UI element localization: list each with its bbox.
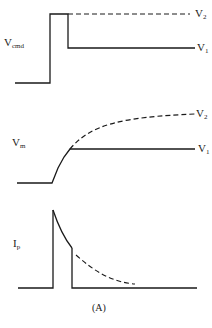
vm-axis-label: Vm [12, 137, 25, 150]
ip-label-sub: p [17, 243, 21, 251]
v1-main: V [198, 142, 206, 154]
vcmd-v1-label: V1 [197, 42, 208, 55]
vcmd-label-sub: cmd [12, 42, 24, 50]
ip-axis-label: Ip [13, 238, 20, 251]
vm-v1-label: V1 [198, 143, 209, 156]
vcmd-axis-label: Vcmd [4, 37, 24, 50]
v2-sub: 2 [204, 113, 208, 121]
vcmd-trace [15, 14, 195, 83]
v2-main: V [195, 7, 203, 19]
ip-trace [18, 210, 197, 288]
v1-sub: 1 [206, 148, 210, 156]
figure-caption: (A) [92, 302, 106, 313]
v1-sub: 1 [205, 47, 209, 55]
vm-v2-label: V2 [196, 108, 207, 121]
waveform-diagram [0, 0, 212, 328]
vm-trace [17, 114, 195, 183]
v2-main: V [196, 107, 204, 119]
vcmd-label-main: V [4, 36, 12, 48]
vcmd-v2-label: V2 [195, 8, 206, 21]
vm-label-sub: m [20, 142, 25, 150]
v1-main: V [197, 41, 205, 53]
v2-sub: 2 [203, 13, 207, 21]
vm-label-main: V [12, 136, 20, 148]
